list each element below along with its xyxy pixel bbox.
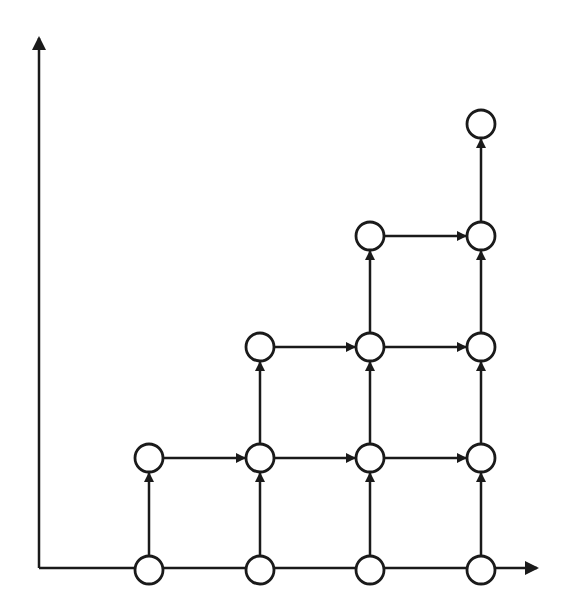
- node-circle: [356, 333, 384, 361]
- node-circle: [135, 556, 163, 584]
- node-circle: [246, 333, 274, 361]
- node-circle: [356, 556, 384, 584]
- edges: [149, 139, 481, 556]
- node-circle: [467, 333, 495, 361]
- node-circle: [356, 222, 384, 250]
- node-circle: [135, 444, 163, 472]
- node-circle: [246, 444, 274, 472]
- node-circle: [246, 556, 274, 584]
- node-circle: [467, 556, 495, 584]
- node-circle: [467, 110, 495, 138]
- node-circle: [467, 222, 495, 250]
- lattice-diagram: [0, 0, 567, 606]
- node-circle: [356, 444, 384, 472]
- axes: [39, 38, 537, 568]
- node-circle: [467, 444, 495, 472]
